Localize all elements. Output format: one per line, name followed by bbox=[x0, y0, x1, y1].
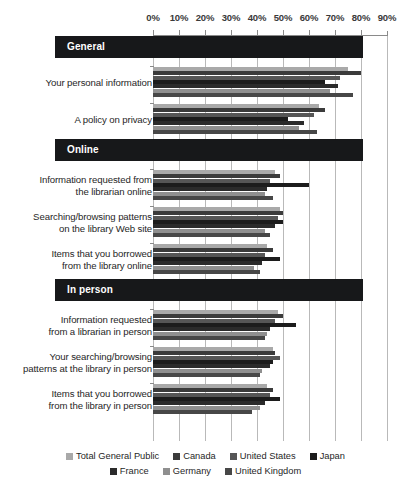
bar-group-bars bbox=[153, 170, 403, 203]
legend-item-france[interactable]: France bbox=[110, 464, 149, 479]
bar-group-bars bbox=[153, 104, 403, 137]
bar-united-kingdom bbox=[153, 373, 260, 377]
legend-swatch-icon bbox=[66, 453, 73, 460]
legend-item-total-general-public[interactable]: Total General Public bbox=[66, 449, 159, 464]
x-axis-tick-label: 10% bbox=[170, 12, 188, 23]
bar-group-bars bbox=[153, 384, 403, 417]
bar-group: A policy on privacy bbox=[0, 102, 411, 139]
x-axis-tick-labels: 0%10%20%30%40%50%60%70%80%90% bbox=[0, 12, 411, 28]
bar-group-label: Items that you borrowedfrom the library … bbox=[2, 248, 152, 271]
section-header-in-person: In person bbox=[55, 279, 363, 301]
x-axis-tick-label: 0% bbox=[146, 12, 159, 23]
bar-group: Items that you borrowedfrom the library … bbox=[0, 382, 411, 419]
bar-group: Information requested fromthe librarian … bbox=[0, 168, 411, 205]
legend-row: FranceGermanyUnited Kingdom bbox=[0, 464, 411, 479]
bar-united-kingdom bbox=[153, 130, 317, 134]
x-axis-tick-label: 40% bbox=[248, 12, 266, 23]
bar-group: Your personal information bbox=[0, 65, 411, 102]
legend-label: United Kingdom bbox=[235, 466, 301, 476]
x-axis-tick-label: 30% bbox=[222, 12, 240, 23]
section-header-label: Online bbox=[67, 144, 99, 155]
bar-group: Your searching/browsingpatterns at the l… bbox=[0, 345, 411, 382]
bar-group-bars bbox=[153, 347, 403, 380]
bar-united-kingdom bbox=[153, 196, 273, 200]
legend-swatch-icon bbox=[163, 468, 170, 475]
bar-group-label: Your personal information bbox=[2, 77, 152, 89]
x-axis-tick-label: 50% bbox=[274, 12, 292, 23]
section-header-label: General bbox=[67, 41, 105, 52]
legend-label: France bbox=[120, 466, 149, 476]
bar-united-kingdom bbox=[153, 93, 353, 97]
bar-united-kingdom bbox=[153, 270, 260, 274]
legend-swatch-icon bbox=[173, 453, 180, 460]
bar-group-bars bbox=[153, 310, 403, 343]
chart-legend: Total General PublicCanadaUnited StatesJ… bbox=[0, 449, 411, 479]
legend-label: United States bbox=[240, 451, 296, 461]
bar-united-kingdom bbox=[153, 336, 265, 340]
section-header-general: General bbox=[55, 36, 363, 58]
bar-group-label: Searching/browsing patternson the librar… bbox=[2, 211, 152, 234]
x-axis-tick-label: 80% bbox=[352, 12, 370, 23]
bar-group-label: Information requested fromthe librarian … bbox=[2, 174, 152, 197]
bar-united-kingdom bbox=[153, 410, 252, 414]
legend-item-canada[interactable]: Canada bbox=[173, 449, 216, 464]
legend-item-united-kingdom[interactable]: United Kingdom bbox=[225, 464, 301, 479]
legend-swatch-icon bbox=[310, 453, 317, 460]
section-spacer bbox=[0, 161, 411, 168]
legend-row: Total General PublicCanadaUnited StatesJ… bbox=[0, 449, 411, 464]
bar-group-bars bbox=[153, 67, 403, 100]
bar-group: Information requestedfrom a librarian in… bbox=[0, 308, 411, 345]
bar-chart: 0%10%20%30%40%50%60%70%80%90% GeneralYou… bbox=[0, 0, 411, 489]
section-spacer bbox=[0, 301, 411, 308]
legend-label: Germany bbox=[173, 466, 211, 476]
x-axis-tick-label: 60% bbox=[300, 12, 318, 23]
x-axis-tick-mark bbox=[387, 31, 388, 36]
legend-item-japan[interactable]: Japan bbox=[310, 449, 345, 464]
section-header-online: Online bbox=[55, 139, 363, 161]
legend-swatch-icon bbox=[225, 468, 232, 475]
legend-item-united-states[interactable]: United States bbox=[230, 449, 296, 464]
legend-swatch-icon bbox=[230, 453, 237, 460]
chart-plot-area: GeneralYour personal informationA policy… bbox=[0, 36, 411, 419]
bar-group-label: Your searching/browsingpatterns at the l… bbox=[2, 351, 152, 374]
bar-group: Searching/browsing patternson the librar… bbox=[0, 205, 411, 242]
legend-label: Japan bbox=[320, 451, 345, 461]
bar-group-bars bbox=[153, 207, 403, 240]
bar-group: Items that you borrowedfrom the library … bbox=[0, 242, 411, 279]
bar-united-kingdom bbox=[153, 233, 270, 237]
bar-group-label: A policy on privacy bbox=[2, 114, 152, 126]
legend-label: Total General Public bbox=[76, 451, 159, 461]
legend-item-germany[interactable]: Germany bbox=[163, 464, 211, 479]
x-axis-tick-label: 70% bbox=[326, 12, 344, 23]
bar-group-label: Items that you borrowedfrom the library … bbox=[2, 388, 152, 411]
legend-label: Canada bbox=[183, 451, 216, 461]
section-header-label: In person bbox=[67, 284, 113, 295]
bar-group-label: Information requestedfrom a librarian in… bbox=[2, 314, 152, 337]
x-axis-tick-label: 90% bbox=[378, 12, 396, 23]
section-spacer bbox=[0, 58, 411, 65]
x-axis-tick-label: 20% bbox=[196, 12, 214, 23]
legend-swatch-icon bbox=[110, 468, 117, 475]
bar-group-bars bbox=[153, 244, 403, 277]
